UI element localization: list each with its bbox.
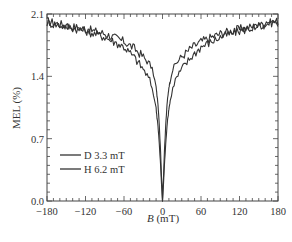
x-axis-label-unit: (mT) bbox=[154, 212, 180, 225]
y-axis-ticks: 0.00.71.42.1 bbox=[31, 9, 278, 207]
x-tick-label: −180 bbox=[36, 206, 58, 217]
plot-border bbox=[47, 14, 278, 201]
series-line-h bbox=[47, 20, 278, 201]
y-axis-label: MEL (%) bbox=[10, 87, 23, 129]
legend: D 3.3 mT H 6.2 mT bbox=[60, 150, 125, 175]
plot-frame bbox=[47, 14, 278, 201]
y-tick-label: 2.1 bbox=[31, 9, 44, 20]
series-layer bbox=[47, 18, 278, 201]
x-axis-label: B (mT) bbox=[147, 212, 179, 225]
y-tick-label: 0.7 bbox=[31, 134, 44, 145]
x-tick-label: 60 bbox=[196, 206, 207, 217]
legend-label-d: D 3.3 mT bbox=[84, 150, 125, 161]
mel-chart: −180−120−60060120180 0.00.71.42.1 D 3.3 … bbox=[0, 0, 292, 242]
x-axis-ticks: −180−120−60060120180 bbox=[36, 14, 286, 217]
legend-label-h: H 6.2 mT bbox=[84, 164, 125, 175]
x-tick-label: −120 bbox=[75, 206, 97, 217]
x-tick-label: −60 bbox=[116, 206, 132, 217]
series-line-d bbox=[47, 18, 278, 201]
x-tick-label: 120 bbox=[232, 206, 248, 217]
y-tick-label: 1.4 bbox=[31, 71, 45, 82]
x-tick-label: 180 bbox=[270, 206, 286, 217]
y-tick-label: 0.0 bbox=[31, 196, 44, 207]
